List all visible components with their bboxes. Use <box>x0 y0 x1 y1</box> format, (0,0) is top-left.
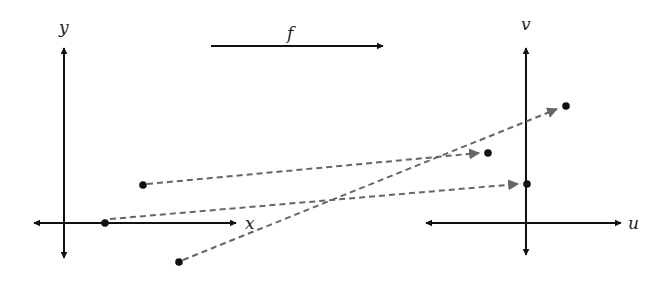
v-axis-label: v <box>521 14 531 34</box>
mapping-arrow-upper-to-left <box>147 153 479 184</box>
mapping-arrow-axis-to-v-axis <box>110 184 518 219</box>
mapping-arrows <box>110 109 557 260</box>
point-upper <box>139 181 147 189</box>
function-mapping-diagram: y x f v u <box>0 0 658 283</box>
function-arrow: f <box>211 23 383 46</box>
codomain-plane: v u <box>426 14 639 255</box>
x-axis-label: x <box>245 213 255 233</box>
function-label: f <box>285 23 296 43</box>
image-point-left <box>484 149 492 157</box>
y-axis-label: y <box>58 17 69 37</box>
u-axis-label: u <box>628 213 639 233</box>
image-point-upper-right <box>562 102 570 110</box>
domain-plane: y x <box>34 17 255 258</box>
image-point-on-v-axis <box>523 180 531 188</box>
point-on-x-axis <box>101 219 109 227</box>
point-lower <box>175 258 183 266</box>
